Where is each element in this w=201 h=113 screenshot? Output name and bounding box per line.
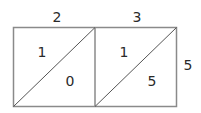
cell-2-lower: 5	[148, 74, 157, 88]
cell-2-upper: 1	[120, 45, 129, 59]
diagonal-left	[14, 28, 96, 107]
top-digit-2: 3	[133, 10, 142, 24]
right-digit: 5	[184, 58, 193, 72]
cell-1-lower: 0	[66, 74, 75, 88]
top-digit-1: 2	[53, 10, 62, 24]
cell-1-upper: 1	[38, 45, 47, 59]
lattice-grid	[0, 0, 201, 113]
diagonal-right	[95, 28, 177, 107]
